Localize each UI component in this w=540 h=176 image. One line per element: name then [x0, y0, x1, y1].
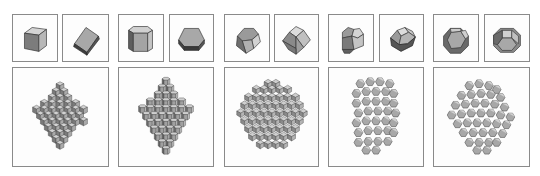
cube-cluster-icon [13, 68, 108, 166]
hexprism-cluster-icon [119, 68, 213, 166]
rd-cluster-icon [225, 68, 318, 166]
rd-view-2 [274, 14, 319, 62]
to-cluster-icon [434, 68, 529, 166]
elongated-dodecahedron-icon [329, 15, 373, 61]
rd-view-1 [224, 14, 270, 62]
truncated-octahedron-alt-icon [485, 15, 529, 61]
cube-tilted-icon [63, 15, 108, 61]
cube-cluster [12, 67, 109, 167]
rhombic-dodecahedron-icon [225, 15, 269, 61]
ed-view-2 [379, 14, 424, 62]
cube-view-tilted [62, 14, 109, 62]
ed-view-1 [328, 14, 374, 62]
to-cluster [433, 67, 530, 167]
elongated-dodecahedron-alt-icon [380, 15, 423, 61]
truncated-octahedron-icon [434, 15, 478, 61]
ed-cluster [328, 67, 424, 167]
hexprism-cluster [118, 67, 214, 167]
rd-cluster [224, 67, 319, 167]
hexagonal-prism-top-icon [170, 15, 213, 61]
to-view-square [484, 14, 530, 62]
cube-view-oblique [12, 14, 58, 62]
hexprism-view-top [169, 14, 214, 62]
rhombic-dodecahedron-alt-icon [275, 15, 318, 61]
hexprism-view-side [118, 14, 164, 62]
ed-cluster-icon [329, 68, 423, 166]
hexagonal-prism-icon [119, 15, 163, 61]
cube-icon [13, 15, 57, 61]
to-view-hex [433, 14, 479, 62]
